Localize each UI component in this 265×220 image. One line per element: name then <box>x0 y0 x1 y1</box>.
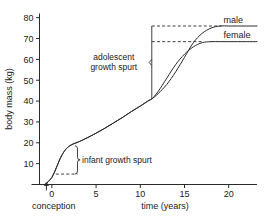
y-axis-group: 1020304050607080 <box>23 13 39 185</box>
y-tick-label: 70 <box>23 34 33 44</box>
y-tick-label: 60 <box>23 55 33 65</box>
y-tick-label: 50 <box>23 76 33 86</box>
conception-label: conception <box>32 201 76 211</box>
y-tick-label: 10 <box>23 159 33 169</box>
growth-curve-chart: 1020304050607080 05101520 conception bod… <box>0 0 265 220</box>
y-axis-tick-labels: 1020304050607080 <box>23 13 33 169</box>
y-tick-label: 80 <box>23 13 33 23</box>
x-tick-label: 0 <box>49 189 54 199</box>
adolescent-annotation-line2: growth spurt <box>90 62 137 72</box>
x-tick-label: 20 <box>224 189 234 199</box>
infant-annotation: infant growth spurt <box>56 146 153 174</box>
y-tick-label: 30 <box>23 117 33 127</box>
adolescent-bracket <box>149 26 152 99</box>
x-tick-label: 5 <box>94 189 99 199</box>
infant-brace <box>75 146 80 174</box>
x-axis-ticks <box>52 185 229 189</box>
adolescent-annotation: adolescent growth spurt <box>90 26 221 99</box>
infant-annotation-label: infant growth spurt <box>82 155 153 165</box>
x-axis-group: 05101520 <box>32 185 258 199</box>
y-axis-ticks <box>36 18 40 164</box>
female-series-label: female <box>223 30 250 40</box>
x-tick-label: 10 <box>135 189 145 199</box>
male-series-label: male <box>223 15 243 25</box>
y-tick-label: 20 <box>23 138 33 148</box>
x-axis-title: time (years) <box>141 201 189 211</box>
y-axis-title: body mass (kg) <box>4 68 14 130</box>
x-tick-label: 15 <box>179 189 189 199</box>
adolescent-annotation-line1: adolescent <box>93 52 135 62</box>
y-tick-label: 40 <box>23 96 33 106</box>
x-axis-tick-labels: 05101520 <box>49 189 233 199</box>
chart-canvas: 1020304050607080 05101520 conception bod… <box>0 0 265 220</box>
